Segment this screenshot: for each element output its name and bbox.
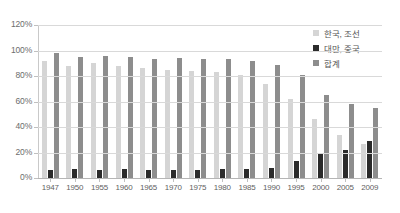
gridline [38, 127, 382, 128]
x-axis-tick-mark [75, 178, 76, 182]
bar [171, 170, 176, 178]
legend-item: 합계 [313, 56, 397, 69]
x-axis-tick-label: 1947 [38, 183, 63, 199]
gridline [38, 51, 382, 52]
x-axis-tick-label: 1975 [185, 183, 210, 199]
bar [367, 141, 372, 178]
y-axis-tick-label: 120% [0, 19, 32, 29]
y-axis-tick-label: 0% [0, 172, 32, 182]
bar [250, 61, 255, 178]
x-axis-tick-label: 1970 [161, 183, 186, 199]
x-axis-tick-mark [370, 178, 371, 182]
bar-chart: 120%100%80%60%40%20%0% 19471950195519601… [0, 0, 400, 213]
bar [140, 68, 145, 178]
legend-item: 한국, 조선 [313, 26, 397, 39]
x-axis-line [38, 178, 382, 179]
bar [318, 154, 323, 178]
bar [324, 95, 329, 178]
x-axis-tick-mark [124, 178, 125, 182]
x-axis-tick-mark [50, 178, 51, 182]
bar [122, 169, 127, 178]
gridline [38, 25, 382, 26]
bar [349, 104, 354, 178]
y-axis-tick-label: 60% [0, 96, 32, 106]
x-axis-tick-mark [296, 178, 297, 182]
bar [337, 135, 342, 178]
bar [103, 56, 108, 178]
x-axis-tick-mark [173, 178, 174, 182]
x-axis-tick-label: 1985 [235, 183, 260, 199]
bar [220, 169, 225, 178]
bar [361, 144, 366, 178]
gridline [38, 102, 382, 103]
gridline [38, 153, 382, 154]
bar [152, 59, 157, 178]
x-axis-tick-label: 1965 [136, 183, 161, 199]
legend-label: 합계 [324, 57, 340, 69]
y-axis-tick-label: 100% [0, 45, 32, 55]
y-axis-tick-label: 20% [0, 147, 32, 157]
x-axis-tick-mark [271, 178, 272, 182]
x-axis-tick-label: 1980 [210, 183, 235, 199]
bar [146, 170, 151, 178]
x-axis-tick-mark [345, 178, 346, 182]
bar [263, 84, 268, 178]
legend-label: 한국, 조선 [324, 27, 360, 39]
bar [343, 150, 348, 178]
bar [195, 170, 200, 178]
legend-item: 대만, 중국 [313, 41, 397, 54]
x-axis-labels: 1947195019551960196519701975198019851990… [38, 183, 382, 199]
chart-legend: 한국, 조선대만, 중국합계 [313, 26, 397, 71]
x-axis-tick-mark [99, 178, 100, 182]
x-axis-tick-label: 2000 [308, 183, 333, 199]
y-axis-tick-label: 40% [0, 121, 32, 131]
bar [312, 119, 317, 178]
x-axis-tick-mark [149, 178, 150, 182]
bar [269, 168, 274, 178]
bar [54, 53, 59, 178]
x-axis-tick-mark [247, 178, 248, 182]
bar [226, 59, 231, 178]
gridline [38, 76, 382, 77]
x-axis-tick-label: 1995 [284, 183, 309, 199]
legend-label: 대만, 중국 [324, 42, 360, 54]
bar [48, 170, 53, 178]
x-axis-tick-label: 1960 [112, 183, 137, 199]
x-axis-tick-label: 2005 [333, 183, 358, 199]
bar [373, 108, 378, 178]
bar [72, 169, 77, 178]
bar [66, 66, 71, 178]
x-axis-tick-label: 1955 [87, 183, 112, 199]
x-axis-tick-mark [321, 178, 322, 182]
bar [97, 170, 102, 178]
x-axis-tick-label: 1990 [259, 183, 284, 199]
legend-swatch [313, 60, 319, 66]
bar [244, 169, 249, 178]
bar [275, 65, 280, 178]
x-axis-tick-label: 1950 [63, 183, 88, 199]
bar [165, 70, 170, 178]
bar [116, 66, 121, 178]
bar [189, 71, 194, 178]
bar [201, 59, 206, 178]
bar [91, 63, 96, 178]
x-axis-tick-mark [198, 178, 199, 182]
x-axis-tick-label: 2009 [358, 183, 383, 199]
x-axis-tick-mark [222, 178, 223, 182]
legend-swatch [313, 30, 319, 36]
y-axis-tick-label: 80% [0, 70, 32, 80]
bar [42, 61, 47, 178]
bar [214, 72, 219, 178]
bar [288, 99, 293, 178]
bar [294, 161, 299, 178]
